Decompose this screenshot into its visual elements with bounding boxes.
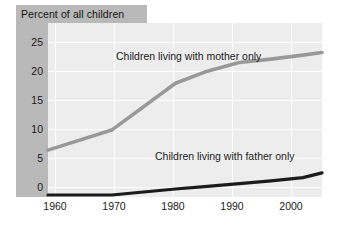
- series-overlay: [0, 0, 338, 233]
- y-tick-5: 5: [17, 153, 43, 164]
- y-tick-25: 25: [17, 37, 43, 48]
- y-tick-20: 20: [17, 66, 43, 77]
- chart-figure: Percent of all children 25 20 15 10 5 0 …: [0, 0, 338, 233]
- y-tick-10: 10: [17, 124, 43, 135]
- y-tick-15: 15: [17, 95, 43, 106]
- page-title: Percent of all children: [21, 6, 124, 22]
- series-label-mother: Children living with mother only: [116, 50, 261, 62]
- x-tick-2000: 2000: [267, 200, 315, 212]
- series-label-father: Children living with father only: [155, 150, 294, 162]
- x-tick-1960: 1960: [31, 200, 79, 212]
- x-tick-1990: 1990: [208, 200, 256, 212]
- x-tick-1970: 1970: [90, 200, 138, 212]
- series-line-mother: [48, 52, 322, 150]
- series-line-father: [48, 173, 322, 195]
- y-tick-0: 0: [17, 182, 43, 193]
- x-tick-1980: 1980: [149, 200, 197, 212]
